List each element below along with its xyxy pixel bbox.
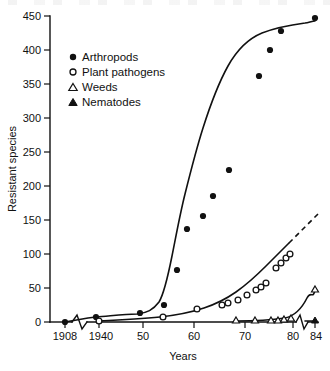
x-tick-label-84: 84 [310,330,322,342]
data-point [160,314,166,320]
data-point [225,300,231,306]
data-point [226,167,232,173]
y-tick-label-450: 450 [23,10,41,22]
y-axis-ticks [44,16,50,322]
data-point [96,318,102,324]
data-point [194,306,200,312]
y-tick-label-200: 200 [23,180,41,192]
data-point [278,28,284,34]
data-point [184,226,190,232]
data-point [137,310,143,316]
plant-pathogens-dashed-extension [289,214,318,243]
chart-plot-area: 450 400 350 300 250 200 150 100 50 0 190… [0,0,330,371]
y-tick-label-300: 300 [23,112,41,124]
x-tick-label-60: 60 [188,330,200,342]
y-tick-label-250: 250 [23,146,41,158]
legend-marker-filled-triangle-icon [69,99,77,106]
x-tick-label-80: 80 [287,330,299,342]
data-point [256,73,262,79]
y-tick-label-350: 350 [23,78,41,90]
data-point [267,47,273,53]
data-point [219,302,225,308]
nematodes-markers [312,317,319,323]
x-axis-break-1908-1940 [72,315,87,329]
legend-marker-open-triangle-icon [69,84,77,91]
data-point [312,15,318,21]
data-point [273,265,279,271]
y-axis-tick-labels: 450 400 350 300 250 200 150 100 50 0 [23,10,41,328]
figure-container: 450 400 350 300 250 200 150 100 50 0 190… [0,0,330,371]
data-point [278,260,284,266]
data-point [235,297,241,303]
x-axis-tick-labels: 1908 1940 50 60 70 80 84 [53,330,322,342]
y-tick-label-150: 150 [23,214,41,226]
y-tick-label-400: 400 [23,44,41,56]
series-weeds [233,286,319,323]
legend-label-arthropods: Arthropods [82,51,139,63]
legend-label-nematodes: Nematodes [82,96,141,108]
chart-legend: Arthropods Plant pathogens Weeds Nematod… [69,51,166,108]
data-point [200,213,206,219]
data-point [174,267,180,273]
legend-marker-filled-circle-icon [70,54,76,60]
x-tick-label-1908: 1908 [53,330,77,342]
data-point [288,315,295,321]
data-point [161,302,167,308]
data-point [62,319,68,325]
data-point [312,286,319,292]
data-point [233,317,240,323]
y-tick-label-50: 50 [29,282,41,294]
series-nematodes [305,317,319,323]
y-tick-label-100: 100 [23,248,41,260]
data-point [312,317,319,323]
x-axis-title: Years [169,350,197,362]
x-tick-label-1940: 1940 [89,330,113,342]
legend-marker-open-circle-icon [70,69,76,75]
data-point [244,292,250,298]
plant-pathogens-markers [96,251,293,324]
legend-label-plant-pathogens: Plant pathogens [82,66,165,78]
y-tick-label-0: 0 [35,316,41,328]
data-point [210,193,216,199]
series-plant-pathogens [96,214,318,324]
legend-label-weeds: Weeds [82,81,118,93]
data-point [263,280,269,286]
x-tick-label-50: 50 [137,330,149,342]
data-point [287,251,293,257]
weeds-markers [233,286,319,323]
x-axis-break-1980-1984 [296,315,308,329]
x-tick-label-70: 70 [239,330,251,342]
data-point [258,284,264,290]
y-axis-title: Resistant species [6,125,18,212]
